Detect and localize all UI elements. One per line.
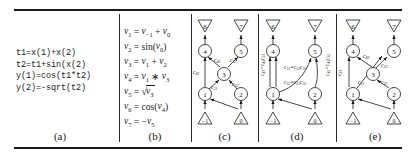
edge-label-c51-expansion: c51=c53c31 — [284, 64, 306, 71]
svg-text:1: 1 — [351, 91, 355, 99]
edge-label-c41: c41 — [193, 69, 199, 76]
equation-v3: v3 = v1 + v2 — [124, 54, 170, 69]
caption-b: (b) — [120, 130, 190, 142]
edge-label-c41: c41 — [337, 70, 343, 76]
svg-text:5: 5 — [313, 48, 317, 56]
equation-v6: v6 = cos(v4) — [124, 99, 170, 114]
panel-d-graph: 12 45 −10 67 c51=c53c31 c52=c53c32 c41=c… — [259, 12, 335, 144]
edge-label-c32: c32 — [232, 81, 238, 88]
svg-text:−1: −1 — [270, 118, 276, 124]
equation-list: v1 = v−1 + v0 v2 = sin(v0) v3 = v1 + v2 … — [124, 24, 170, 129]
svg-text:4: 4 — [351, 48, 355, 56]
code-listing: t1=x(1)+x(2) t2=t1+sin(x(2) y(1)=cos(t1*… — [16, 48, 91, 94]
panel-e-graph: 12 3 45 −10 67 c43 c53 c41 c51 c32 (e) — [337, 12, 413, 144]
panel-b-equations: v1 = v−1 + v0 v2 = sin(v0) v3 = v1 + v2 … — [120, 12, 190, 144]
caption-d: (d) — [259, 130, 335, 142]
edge-label-c32: c32 — [381, 79, 387, 86]
graph-d-svg: 12 45 −10 67 c51=c53c31 c52=c53c32 c41=c… — [259, 12, 335, 132]
svg-text:7: 7 — [392, 23, 396, 31]
figure-container: t1=x(1)+x(2) t2=t1+sin(x(2) y(1)=cos(t1*… — [0, 0, 416, 159]
svg-text:0: 0 — [240, 118, 243, 124]
svg-text:6: 6 — [271, 23, 275, 31]
svg-text:7: 7 — [313, 23, 317, 31]
svg-text:4: 4 — [203, 48, 207, 56]
equation-v5: v5 = √v3 — [124, 84, 170, 99]
top-rule — [14, 9, 402, 11]
caption-e: (e) — [337, 130, 413, 142]
edge-label-c51: c51 — [358, 79, 364, 86]
edge-label-c42-expansion: c42=c43c32 — [324, 54, 331, 76]
equation-v7: v7 = −v5 — [124, 114, 170, 129]
svg-text:6: 6 — [351, 23, 355, 31]
equation-v2: v2 = sin(v0) — [124, 39, 170, 54]
svg-text:1: 1 — [271, 91, 275, 99]
graph-e-svg: 12 3 45 −10 67 c43 c53 c41 c51 c32 — [337, 12, 413, 132]
svg-text:0: 0 — [314, 118, 317, 124]
svg-text:2: 2 — [239, 91, 243, 99]
graph-c-svg: 12 3 45 −10 67 c43 c53 c41 c31 c32 — [192, 12, 257, 132]
svg-text:1: 1 — [203, 91, 207, 99]
svg-text:5: 5 — [239, 48, 243, 56]
edge-label-c31: c31 — [211, 84, 217, 91]
svg-text:5: 5 — [392, 48, 396, 56]
svg-text:0: 0 — [393, 118, 396, 124]
edge-label-c52-expansion: c52=c53c32 — [284, 79, 306, 86]
svg-text:−1: −1 — [202, 118, 208, 124]
caption-a: (a) — [2, 130, 118, 142]
svg-text:3: 3 — [222, 71, 226, 79]
svg-text:6: 6 — [203, 23, 207, 31]
equation-v1: v1 = v−1 + v0 — [124, 24, 170, 39]
equation-v4: v4 = v1 ∗ v3 — [124, 69, 170, 84]
svg-text:4: 4 — [271, 48, 275, 56]
svg-text:3: 3 — [371, 71, 375, 79]
panel-c-graph: 12 3 45 −10 67 c43 c53 c41 c31 c32 (c) — [192, 12, 257, 144]
svg-text:2: 2 — [313, 91, 317, 99]
bottom-rule — [14, 147, 402, 149]
edge-label-c43: c43 — [363, 53, 369, 60]
edge-label-c53: c53 — [381, 62, 387, 69]
edge-label-c53: c53 — [230, 57, 236, 64]
caption-c: (c) — [192, 130, 257, 142]
svg-text:2: 2 — [392, 91, 396, 99]
svg-text:7: 7 — [239, 23, 243, 31]
svg-text:−1: −1 — [350, 118, 356, 124]
panel-a-source-code: t1=x(1)+x(2) t2=t1+sin(x(2) y(1)=cos(t1*… — [2, 12, 118, 144]
edge-label-c41-expansion: c41=c43c31 — [259, 54, 266, 76]
edge-label-c43: c43 — [214, 57, 220, 64]
